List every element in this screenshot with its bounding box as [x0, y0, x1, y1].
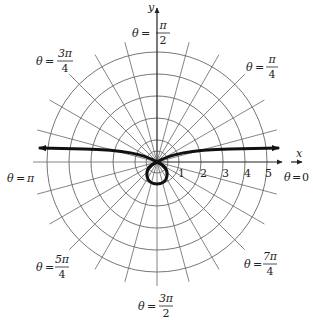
curve-left-branch	[40, 148, 157, 162]
fraction-denominator: 4	[269, 68, 276, 81]
equals-sign: =	[147, 300, 156, 313]
theta-symbol: θ	[284, 171, 291, 184]
fraction-numerator: 7π	[263, 250, 278, 263]
polar-graph-canvas: x y 1 2 3 4 5 θ = 0 θ = π θ = π 2 θ = 3π…	[0, 0, 313, 320]
equals-sign: =	[255, 61, 264, 74]
fraction-denominator: 4	[267, 265, 274, 278]
radial-tick-labels: 1 2 3 4 5	[178, 167, 272, 180]
equals-sign: =	[16, 172, 25, 185]
fraction-numerator: 5π	[55, 253, 70, 266]
angle-label-5pi-over-4: θ = 5π 4	[36, 253, 70, 281]
angle-value: 0	[302, 171, 309, 184]
equals-sign: =	[253, 258, 262, 271]
polar-diagram: x y 1 2 3 4 5 θ = 0 θ = π θ = π 2 θ = 3π…	[0, 0, 313, 320]
angle-label-3pi-over-4: θ = 3π 4	[36, 47, 73, 75]
theta-symbol: θ	[7, 172, 14, 185]
tick-5: 5	[265, 167, 272, 180]
fraction-numerator: 3π	[159, 292, 174, 305]
tick-2: 2	[200, 167, 207, 180]
angle-value: π	[26, 172, 35, 185]
fraction-numerator: π	[267, 53, 276, 66]
theta-symbol: θ	[36, 55, 43, 68]
theta-symbol: θ	[138, 300, 145, 313]
fraction-denominator: 4	[62, 62, 69, 75]
fraction-numerator: 3π	[58, 47, 73, 60]
axes	[157, 8, 302, 162]
tick-4: 4	[244, 167, 251, 180]
theta-symbol: θ	[132, 27, 139, 40]
y-axis-label: y	[147, 1, 155, 14]
tick-3: 3	[222, 167, 229, 180]
fraction-denominator: 4	[59, 268, 66, 281]
fraction-numerator: π	[158, 19, 167, 32]
angle-label-7pi-over-4: θ = 7π 4	[244, 250, 278, 278]
angle-label-0: θ = 0	[284, 171, 309, 184]
theta-symbol: θ	[246, 61, 253, 74]
angle-label-pi-over-4: θ = π 4	[246, 53, 278, 81]
fraction-denominator: 2	[160, 34, 167, 47]
equals-sign: =	[141, 27, 150, 40]
tick-1: 1	[178, 167, 185, 180]
equals-sign: =	[45, 55, 54, 68]
theta-symbol: θ	[36, 261, 43, 274]
angle-label-pi-over-2: θ = π 2	[132, 19, 170, 47]
equals-sign: =	[45, 261, 54, 274]
angle-label-3pi-over-2: θ = 3π 2	[138, 292, 174, 320]
angle-label-pi: θ = π	[7, 172, 35, 185]
equals-sign: =	[292, 171, 301, 184]
fraction-denominator: 2	[163, 307, 170, 320]
theta-symbol: θ	[244, 258, 251, 271]
x-axis-label: x	[296, 147, 303, 160]
